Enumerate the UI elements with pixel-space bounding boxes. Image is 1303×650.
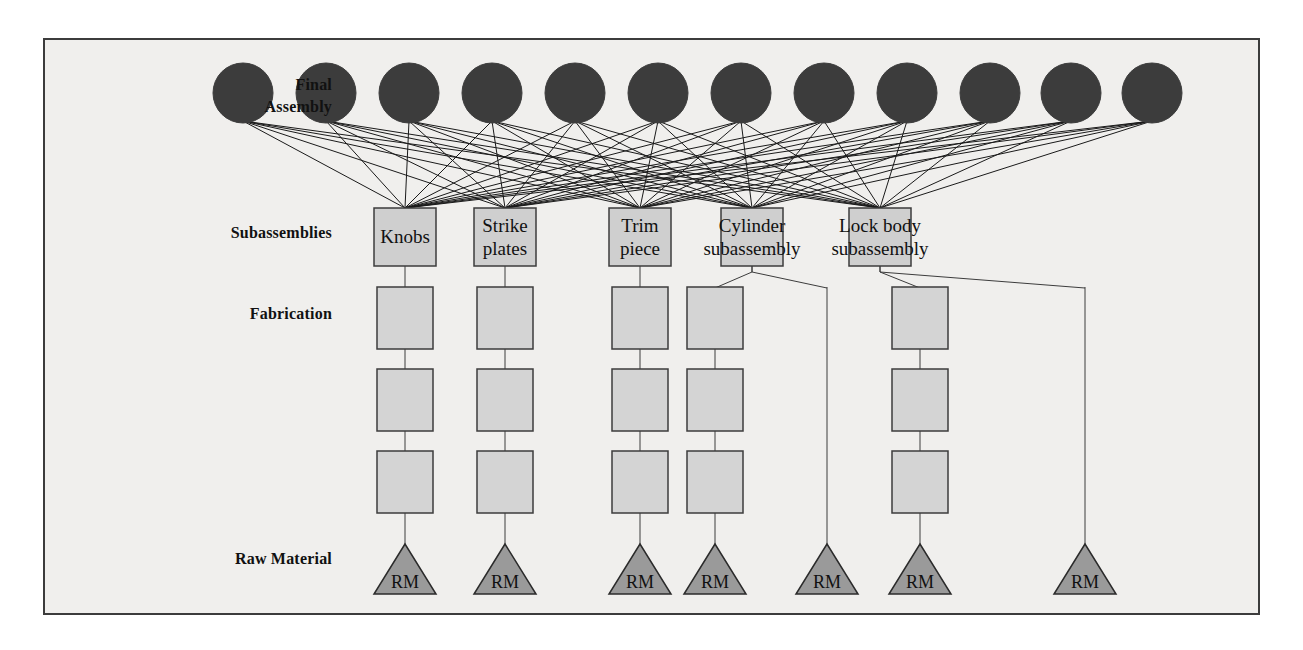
assembly-edge bbox=[405, 121, 1152, 208]
assembly-edge bbox=[640, 121, 907, 208]
subassembly-label-trim: piece bbox=[620, 238, 660, 259]
raw-material-label-6: RM bbox=[906, 572, 934, 592]
fabrication-node-c1-l2[interactable] bbox=[377, 369, 433, 431]
final-assembly-node-5[interactable] bbox=[545, 63, 605, 123]
assembly-edge bbox=[243, 121, 880, 208]
raw-material-label-3: RM bbox=[626, 572, 654, 592]
fabrication-node-c2-l1[interactable] bbox=[477, 287, 533, 349]
fabrication-node-c3-l1[interactable] bbox=[612, 287, 668, 349]
fabrication-node-c4-l1[interactable] bbox=[687, 287, 743, 349]
diagram-canvas: KnobsStrikeplatesTrimpieceCylindersubass… bbox=[0, 0, 1303, 650]
fabrication-node-c2-l3[interactable] bbox=[477, 451, 533, 513]
assembly-edge bbox=[243, 121, 405, 208]
raw-material-label-1: RM bbox=[391, 572, 419, 592]
final-assembly-node-4[interactable] bbox=[462, 63, 522, 123]
assembly-edge bbox=[243, 121, 752, 208]
branch-connector bbox=[880, 266, 920, 288]
subassembly-label-cylinder: Cylinder bbox=[719, 215, 786, 236]
assembly-edge bbox=[405, 121, 990, 208]
subassembly-label-cylinder: subassembly bbox=[703, 238, 801, 259]
assembly-edge bbox=[741, 121, 752, 208]
subassembly-label-strike: plates bbox=[483, 238, 527, 259]
fabrication-node-c5-l1[interactable] bbox=[892, 287, 948, 349]
fabrication-node-c1-l1[interactable] bbox=[377, 287, 433, 349]
branch-connector bbox=[752, 266, 827, 288]
subassembly-label-trim: Trim bbox=[621, 215, 659, 236]
row-label-subassemblies: Subassemblies bbox=[60, 222, 332, 244]
final-assembly-node-12[interactable] bbox=[1122, 63, 1182, 123]
raw-material-label-4: RM bbox=[701, 572, 729, 592]
fabrication-node-c3-l3[interactable] bbox=[612, 451, 668, 513]
raw-material-label-2: RM bbox=[491, 572, 519, 592]
subassembly-label-lockbody: Lock body bbox=[839, 215, 921, 236]
fabrication-node-c3-l2[interactable] bbox=[612, 369, 668, 431]
raw-material-label-7: RM bbox=[1071, 572, 1099, 592]
assembly-edge bbox=[880, 121, 1071, 208]
fabrication-node-c2-l2[interactable] bbox=[477, 369, 533, 431]
row-label-fabrication: Fabrication bbox=[60, 303, 332, 325]
final-assembly-node-8[interactable] bbox=[794, 63, 854, 123]
final-assembly-node-9[interactable] bbox=[877, 63, 937, 123]
raw-material-label-5: RM bbox=[813, 572, 841, 592]
fabrication-node-c5-l2[interactable] bbox=[892, 369, 948, 431]
final-assembly-node-6[interactable] bbox=[628, 63, 688, 123]
subassembly-label-knobs: Knobs bbox=[380, 226, 430, 247]
fabrication-node-c1-l3[interactable] bbox=[377, 451, 433, 513]
final-assembly-node-10[interactable] bbox=[960, 63, 1020, 123]
fabrication-node-c4-l2[interactable] bbox=[687, 369, 743, 431]
subassembly-label-strike: Strike bbox=[482, 215, 527, 236]
final-assembly-node-7[interactable] bbox=[711, 63, 771, 123]
assembly-edge bbox=[505, 121, 990, 208]
row-label-final-assembly: Final Assembly bbox=[60, 74, 332, 117]
assembly-edge bbox=[880, 121, 1152, 208]
branch-connector bbox=[715, 266, 752, 288]
subassembly-label-lockbody: subassembly bbox=[831, 238, 929, 259]
fabrication-node-c4-l3[interactable] bbox=[687, 451, 743, 513]
final-assembly-node-3[interactable] bbox=[379, 63, 439, 123]
assembly-edge bbox=[575, 121, 640, 208]
fabrication-node-c5-l3[interactable] bbox=[892, 451, 948, 513]
final-assembly-node-11[interactable] bbox=[1041, 63, 1101, 123]
row-label-raw-material: Raw Material bbox=[60, 548, 332, 570]
